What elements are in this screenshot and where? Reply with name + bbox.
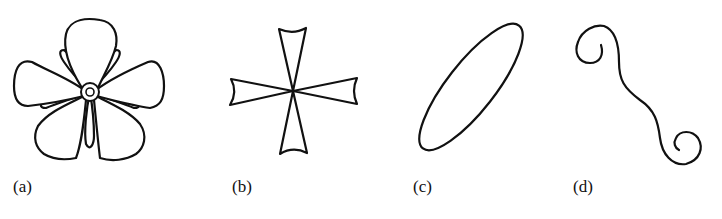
flower-icon xyxy=(14,19,164,160)
spiral-curve-icon xyxy=(577,26,701,165)
panel-label-d: (d) xyxy=(573,177,593,197)
panel-label-b: (b) xyxy=(232,177,252,197)
ellipse-icon xyxy=(404,11,538,163)
figure-canvas xyxy=(0,0,722,219)
cross-icon xyxy=(230,28,357,154)
panel-label-c: (c) xyxy=(413,177,432,197)
panel-label-a: (a) xyxy=(13,177,32,197)
